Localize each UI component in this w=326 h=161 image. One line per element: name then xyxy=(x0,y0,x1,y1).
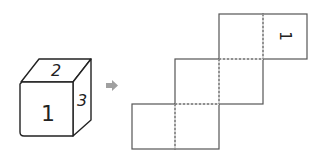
cube-top-label: 2 xyxy=(51,61,61,80)
cube-right-label: 3 xyxy=(77,91,87,110)
net-face xyxy=(219,59,263,104)
arrow-right-icon xyxy=(106,80,118,91)
cube-net-diagram: 1 2 3 1 xyxy=(0,0,326,161)
cube-front-label: 1 xyxy=(41,101,55,126)
net-face xyxy=(132,104,175,149)
net-face-label: 1 xyxy=(276,31,294,41)
net-face xyxy=(175,104,219,149)
net-face xyxy=(219,14,263,59)
net-face xyxy=(175,59,219,104)
